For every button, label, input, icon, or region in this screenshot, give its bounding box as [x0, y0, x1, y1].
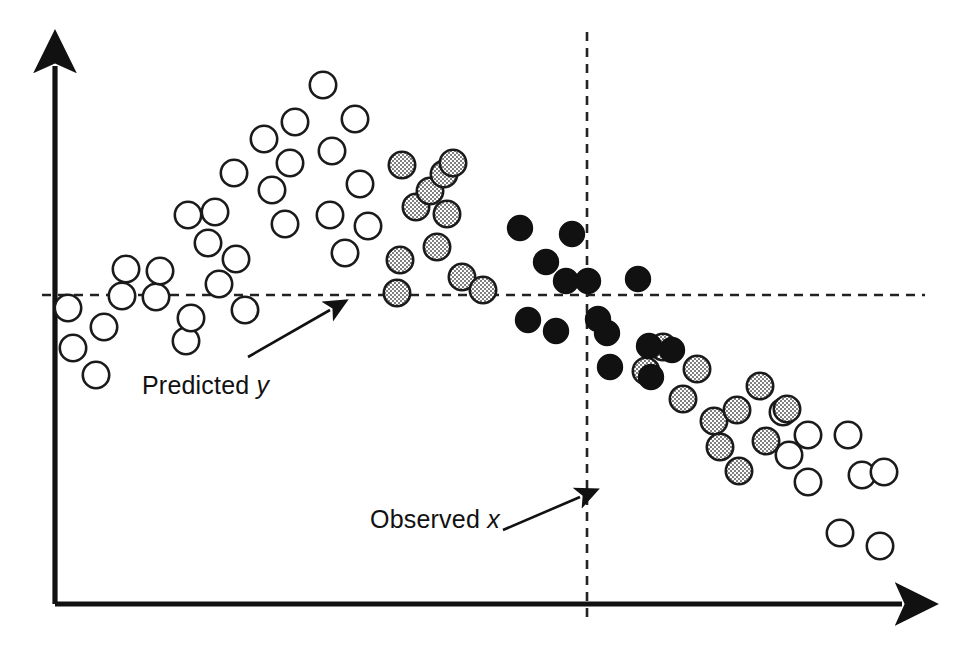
data-point-open-circle — [113, 256, 139, 282]
data-point-solid-circle — [598, 355, 623, 380]
data-point-stippled-circle — [387, 247, 413, 273]
predicted-y-arrow — [248, 310, 330, 357]
data-point-open-circle — [317, 202, 343, 228]
data-point-stippled-circle — [726, 458, 752, 484]
data-point-stippled-circle — [424, 234, 450, 260]
data-point-open-circle — [776, 442, 802, 468]
data-point-solid-circle — [576, 269, 601, 294]
data-point-open-circle — [223, 246, 249, 272]
annotation-leader-layer — [248, 310, 580, 530]
data-point-open-circle — [202, 199, 228, 225]
data-point-open-circle — [795, 469, 821, 495]
observed-x-label: Observed x — [370, 505, 500, 534]
data-point-open-circle — [835, 422, 861, 448]
data-point-open-circle — [251, 126, 277, 152]
data-point-open-circle — [310, 72, 336, 98]
data-point-stippled-circle — [434, 201, 460, 227]
data-point-open-circle — [871, 459, 897, 485]
data-point-stippled-circle — [774, 396, 800, 422]
data-point-stippled-circle — [724, 397, 750, 423]
data-points-layer — [55, 72, 897, 559]
data-point-open-circle — [55, 295, 81, 321]
data-point-open-circle — [795, 422, 821, 448]
data-point-open-circle — [221, 160, 247, 186]
predicted-y-label-prefix: Predicted — [142, 371, 257, 399]
data-point-stippled-circle — [384, 280, 410, 306]
data-point-stippled-circle — [747, 373, 773, 399]
data-point-open-circle — [206, 271, 232, 297]
data-point-solid-circle — [534, 250, 559, 275]
data-point-open-circle — [91, 314, 117, 340]
data-point-open-circle — [282, 109, 308, 135]
observed-x-arrow — [503, 497, 580, 530]
data-point-open-circle — [232, 297, 258, 323]
data-point-open-circle — [319, 138, 345, 164]
data-point-open-circle — [60, 335, 86, 361]
data-point-open-circle — [355, 213, 381, 239]
data-point-solid-circle — [626, 267, 651, 292]
predicted-y-label-variable: y — [257, 371, 270, 399]
data-point-stippled-circle — [684, 356, 710, 382]
data-point-open-circle — [178, 305, 204, 331]
data-point-solid-circle — [554, 269, 579, 294]
data-point-open-circle — [277, 150, 303, 176]
data-point-open-circle — [109, 283, 135, 309]
data-point-open-circle — [147, 258, 173, 284]
scatter-plot — [0, 0, 958, 663]
data-point-solid-circle — [586, 307, 611, 332]
observed-x-label-prefix: Observed — [370, 505, 487, 533]
data-point-solid-circle — [544, 319, 569, 344]
data-point-open-circle — [272, 211, 298, 237]
data-point-solid-circle — [560, 222, 585, 247]
data-point-stippled-circle — [670, 386, 696, 412]
data-point-stippled-circle — [470, 277, 496, 303]
observed-x-label-variable: x — [487, 505, 500, 533]
data-point-open-circle — [83, 362, 109, 388]
data-point-stippled-circle — [753, 428, 779, 454]
data-point-open-circle — [195, 230, 221, 256]
figure-canvas: Predicted y Observed x — [0, 0, 958, 663]
data-point-stippled-circle — [389, 152, 415, 178]
data-point-stippled-circle — [707, 434, 733, 460]
data-point-open-circle — [143, 284, 169, 310]
data-point-open-circle — [342, 106, 368, 132]
data-point-solid-circle — [508, 216, 533, 241]
predicted-y-label: Predicted y — [142, 371, 269, 400]
data-point-solid-circle — [639, 365, 664, 390]
data-point-open-circle — [332, 240, 358, 266]
data-point-stippled-circle — [440, 150, 466, 176]
data-point-open-circle — [175, 202, 201, 228]
data-point-solid-circle — [637, 334, 662, 359]
data-point-open-circle — [259, 177, 285, 203]
data-point-open-circle — [867, 533, 893, 559]
data-point-open-circle — [827, 520, 853, 546]
data-point-solid-circle — [516, 308, 541, 333]
data-point-open-circle — [347, 171, 373, 197]
data-point-solid-circle — [660, 338, 685, 363]
